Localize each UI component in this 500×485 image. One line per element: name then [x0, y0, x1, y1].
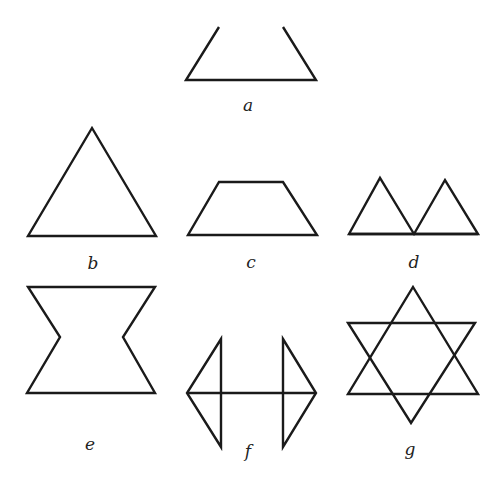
figure-label-g: g: [405, 439, 416, 459]
figure-g: g: [348, 287, 478, 459]
figure-label-b: b: [88, 253, 99, 273]
figure-label-c: c: [246, 252, 256, 272]
figure-c: c: [188, 182, 317, 272]
hourglass-shape: [27, 287, 155, 393]
figure-label-a: a: [243, 95, 253, 115]
geometric-figures-diagram: a b c d e f g: [0, 0, 500, 485]
figure-b: b: [28, 128, 156, 273]
figure-d: d: [349, 178, 478, 272]
triangle-shape: [28, 128, 156, 236]
double-triangle-shape: [349, 178, 478, 234]
figure-a: a: [186, 27, 316, 115]
figure-label-f: f: [243, 441, 254, 461]
trapezoid-shape: [188, 182, 317, 235]
figure-f: f: [187, 339, 316, 461]
downward-triangle-shape: [348, 323, 475, 423]
figure-label-d: d: [409, 252, 420, 272]
open-trapezoid-shape: [186, 27, 316, 80]
upward-triangle-shape: [348, 287, 478, 394]
figure-e: e: [27, 287, 155, 454]
figure-label-e: e: [85, 434, 95, 454]
